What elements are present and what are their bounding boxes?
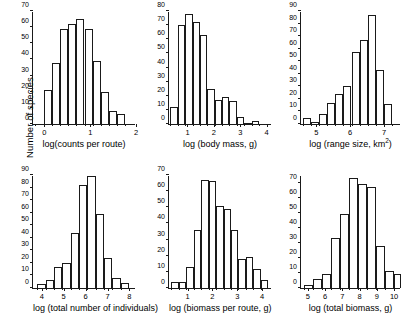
histogram-bar: [385, 271, 394, 288]
x-minor-tick-body-mass-5: [207, 124, 208, 126]
y-tick-label-total-biomass-70: 70: [289, 172, 297, 179]
x-tick-total-biomass-7: [342, 288, 343, 291]
y-tick-label-counts-per-route-30: 30: [21, 65, 29, 72]
x-tick-biomass-per-route-2: [212, 288, 213, 291]
x-minor-tick-range-size-1: [311, 124, 312, 126]
x-minor-tick-counts-per-route-4: [68, 124, 69, 126]
x-tick-counts-per-route-1: [90, 124, 91, 127]
x-tick-label-body-mass-3: 3: [238, 129, 242, 137]
x-minor-tick-range-size-9: [376, 124, 377, 126]
y-tick-label-range-size-60: 60: [289, 38, 297, 45]
y-tick-label-body-mass-10: 10: [157, 99, 165, 106]
histogram-bar: [253, 269, 260, 288]
x-minor-tick-biomass-per-route-8: [231, 288, 232, 290]
x-minor-tick-range-size-8: [368, 124, 369, 126]
y-tick-label-total-biomass-0: 0: [293, 278, 297, 285]
plot-area-total-biomass: 0102030405060705678910log (total biomass…: [300, 176, 400, 289]
histogram-bar: [352, 52, 360, 124]
panel-total-biomass: 0102030405060705678910log (total biomass…: [300, 176, 400, 289]
histogram-bar: [44, 90, 52, 124]
y-tick-body-mass-80: [166, 10, 169, 11]
x-axis-label-base: log (range size, km: [309, 139, 385, 149]
x-tick-label-total-biomass-10: 10: [390, 293, 398, 301]
histogram-bar: [121, 283, 129, 288]
x-tick-total-biomass-9: [377, 288, 378, 291]
y-tick-label-counts-per-route-10: 10: [21, 97, 29, 104]
histogram-bar: [368, 15, 376, 124]
x-tick-biomass-per-route-3: [237, 288, 238, 291]
x-minor-tick-range-size-6: [352, 124, 353, 126]
x-tick-biomass-per-route-1: [188, 288, 189, 291]
x-tick-range-size-6: [350, 124, 351, 127]
x-tick-label-total-number-individuals-8: 8: [127, 293, 131, 301]
histogram-bar: [252, 121, 259, 124]
x-minor-tick-total-biomass-9: [385, 288, 386, 290]
y-tick-label-counts-per-route-60: 60: [21, 17, 29, 24]
histogram-bar: [237, 117, 244, 124]
x-tick-body-mass-3: [240, 124, 241, 127]
histogram-bar: [37, 284, 45, 288]
x-axis-label-body-mass: log (body mass, g): [169, 139, 271, 149]
y-tick-label-biomass-per-route-30: 30: [157, 229, 165, 236]
y-tick-label-total-biomass-40: 40: [289, 217, 297, 224]
histogram-bar: [93, 61, 101, 124]
histogram-bar: [179, 282, 186, 288]
histogram-bar: [313, 279, 322, 288]
x-minor-tick-total-biomass-2: [322, 288, 323, 290]
x-minor-tick-biomass-per-route-1: [179, 288, 180, 290]
x-axis-label-total-number-individuals: log (total number of individuals): [33, 303, 135, 313]
y-tick-label-body-mass-30: 30: [157, 71, 165, 78]
histogram-bar: [85, 29, 93, 124]
y-tick-label-total-biomass-60: 60: [289, 187, 297, 194]
x-axis-label-tail: ): [389, 139, 392, 149]
histogram-bar: [109, 111, 117, 124]
y-tick-label-body-mass-40: 40: [157, 57, 165, 64]
x-tick-label-counts-per-route-0: 0: [42, 129, 46, 137]
x-tick-counts-per-route-2: [136, 124, 137, 127]
histogram-bar: [376, 246, 385, 288]
bar-series-biomass-per-route: [169, 176, 271, 288]
y-tick-label-counts-per-route-20: 20: [21, 81, 29, 88]
histogram-bar: [335, 94, 343, 124]
x-minor-tick-total-number-individuals-0: [37, 288, 38, 290]
x-tick-label-biomass-per-route-2: 2: [210, 293, 214, 301]
histogram-bar: [322, 274, 331, 288]
histogram-bar: [200, 35, 207, 124]
y-tick-label-counts-per-route-40: 40: [21, 49, 29, 56]
x-minor-tick-total-number-individuals-10: [121, 288, 122, 290]
histogram-bar: [394, 274, 401, 288]
y-tick-label-biomass-per-route-20: 20: [157, 245, 165, 252]
x-minor-tick-range-size-3: [327, 124, 328, 126]
y-tick-label-biomass-per-route-0: 0: [161, 278, 165, 285]
x-axis-label-biomass-per-route: log (biomass per route, g): [169, 303, 271, 313]
x-tick-label-total-number-individuals-5: 5: [62, 293, 66, 301]
panel-total-number-individuals: 010203040506070809045678log (total numbe…: [32, 176, 135, 289]
histogram-bar: [222, 97, 229, 124]
x-tick-label-range-size-7: 7: [382, 129, 386, 137]
x-minor-tick-biomass-per-route-7: [224, 288, 225, 290]
x-minor-tick-range-size-0: [303, 124, 304, 126]
x-minor-tick-biomass-per-route-3: [194, 288, 195, 290]
histogram-bar: [185, 14, 192, 124]
x-tick-total-biomass-10: [394, 288, 395, 291]
panel-biomass-per-route: 0102030405060701234log (biomass per rout…: [168, 176, 271, 289]
y-tick-label-biomass-per-route-10: 10: [157, 261, 165, 268]
x-axis-label-range-size: log (range size, km2): [301, 139, 400, 149]
y-tick-label-total-number-individuals-50: 50: [21, 215, 29, 222]
x-tick-total-number-individuals-7: [108, 288, 109, 291]
y-tick-label-total-number-individuals-40: 40: [21, 227, 29, 234]
x-minor-tick-body-mass-1: [178, 124, 179, 126]
y-tick-label-biomass-per-route-60: 60: [157, 181, 165, 188]
x-tick-label-range-size-6: 6: [348, 129, 352, 137]
plot-area-range-size: 0102030405060708090567log (range size, k…: [300, 12, 400, 125]
histogram-bar: [178, 25, 185, 124]
histogram-bar: [246, 257, 253, 288]
histogram-bar: [87, 176, 95, 288]
x-tick-total-number-individuals-5: [64, 288, 65, 291]
histogram-bar: [170, 107, 177, 124]
x-minor-tick-total-biomass-3: [331, 288, 332, 290]
histogram-bar: [60, 29, 68, 124]
y-tick-label-body-mass-60: 60: [157, 29, 165, 36]
bar-series-counts-per-route: [33, 12, 135, 124]
x-minor-tick-counts-per-route-2: [52, 124, 53, 126]
